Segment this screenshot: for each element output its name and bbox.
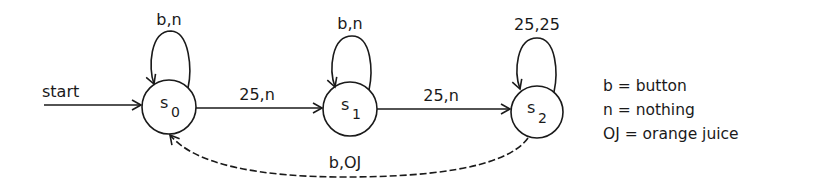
start-label: start [42, 82, 79, 101]
state-s0: s 0 [142, 80, 196, 134]
legend: b = button n = nothing OJ = orange juice [603, 77, 739, 143]
legend-item-n: n = nothing [603, 101, 695, 119]
transition-s2-s0: b,OJ [170, 135, 528, 177]
transition-label: 25,n [239, 85, 275, 104]
state-circle [323, 82, 377, 136]
state-circle [142, 80, 196, 134]
transition-label: 25,n [423, 86, 459, 105]
transition-label: b,n [337, 14, 362, 33]
state-name: s [341, 95, 349, 114]
transition-s0-s0: b,n [151, 10, 190, 88]
state-circle [511, 86, 563, 138]
transition-label: b,n [156, 10, 181, 29]
state-subscript: 2 [538, 110, 547, 126]
transition-label: 25,25 [514, 15, 560, 34]
start-transition: start [42, 82, 141, 105]
transition-s2-s2: 25,25 [514, 15, 560, 92]
state-subscript: 0 [171, 104, 180, 120]
transition-s1-s2: 25,n [377, 86, 510, 109]
state-s1: s 1 [323, 82, 377, 136]
legend-item-oj: OJ = orange juice [603, 125, 739, 143]
legend-item-b: b = button [603, 77, 687, 95]
state-subscript: 1 [352, 106, 361, 122]
transition-s1-s1: b,n [332, 14, 371, 90]
state-s2: s 2 [511, 86, 563, 138]
state-name: s [160, 93, 168, 112]
transition-label: b,OJ [329, 153, 362, 172]
state-diagram: start s 0 s 1 s 2 b,n 25,n b,n 25,n [0, 0, 814, 181]
loop-arrow [517, 38, 556, 92]
transition-s0-s1: 25,n [196, 85, 322, 108]
state-name: s [527, 98, 535, 117]
